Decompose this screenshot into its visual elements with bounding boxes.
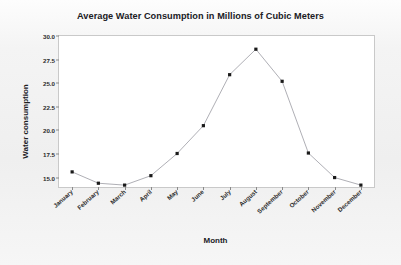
series-line	[72, 49, 361, 185]
x-tick-label: January	[52, 188, 74, 209]
data-point	[281, 80, 284, 83]
x-tick-mark	[256, 187, 257, 190]
data-point	[176, 152, 179, 155]
data-point	[97, 182, 100, 185]
plot-area: Water consumption 30.027.525.022.520.017…	[58, 35, 375, 188]
x-tick-mark	[203, 187, 204, 190]
data-point	[71, 170, 74, 173]
chart-title: Average Water Consumption in Millions of…	[0, 11, 401, 21]
y-tick-label: 17.5	[43, 150, 55, 157]
x-tick-label: August	[237, 188, 258, 207]
series-markers	[71, 48, 363, 187]
x-tick-mark	[282, 187, 283, 190]
x-tick-mark	[177, 187, 178, 190]
x-tick-mark	[125, 187, 126, 190]
y-tick-label: 15.0	[43, 174, 55, 181]
y-tick-label: 25.0	[43, 80, 55, 87]
x-tick-mark	[151, 187, 152, 190]
data-point	[228, 73, 231, 76]
x-tick-label: December	[336, 188, 363, 213]
x-tick-mark	[230, 187, 231, 190]
x-tick-label: September	[256, 188, 284, 215]
x-tick-label: May	[165, 188, 179, 201]
x-tick-mark	[361, 187, 362, 190]
y-axis-title: Water consumption	[21, 46, 33, 197]
data-point	[123, 184, 126, 187]
y-tick-label: 20.0	[43, 127, 55, 134]
x-tick-label: March	[108, 188, 126, 205]
data-point	[254, 48, 257, 51]
x-tick-mark	[98, 187, 99, 190]
x-tick-mark	[308, 187, 309, 190]
y-tick-label: 27.5	[43, 56, 55, 63]
x-tick-mark	[335, 187, 336, 190]
chart-figure: Average Water Consumption in Millions of…	[0, 0, 401, 265]
y-tick-label: 22.5	[43, 103, 55, 110]
x-tick-label: February	[76, 188, 100, 211]
y-tick-label: 30.0	[43, 33, 55, 40]
x-tick-label: April	[138, 188, 153, 203]
x-axis-title: Month	[58, 236, 373, 245]
data-point	[149, 174, 152, 177]
x-tick-mark	[72, 187, 73, 190]
data-point	[333, 176, 336, 179]
x-tick-label: October	[288, 188, 310, 209]
data-series	[59, 36, 374, 187]
data-point	[202, 124, 205, 127]
data-point	[359, 184, 362, 187]
x-tick-label: July	[218, 188, 232, 201]
data-point	[307, 151, 310, 154]
x-tick-label: June	[190, 188, 205, 203]
x-tick-label: November	[309, 188, 336, 213]
